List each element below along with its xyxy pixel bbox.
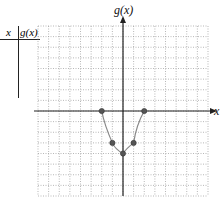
data-point	[99, 108, 104, 113]
chart: x g(x)	[0, 0, 220, 203]
axes	[34, 16, 217, 196]
x-axis-label: x	[213, 104, 220, 118]
y-axis-arrow-icon	[120, 16, 126, 23]
data-point	[110, 140, 115, 145]
data-point	[131, 140, 136, 145]
data-point	[142, 108, 147, 113]
y-axis-label: g(x)	[114, 3, 133, 17]
data-point	[120, 151, 125, 156]
